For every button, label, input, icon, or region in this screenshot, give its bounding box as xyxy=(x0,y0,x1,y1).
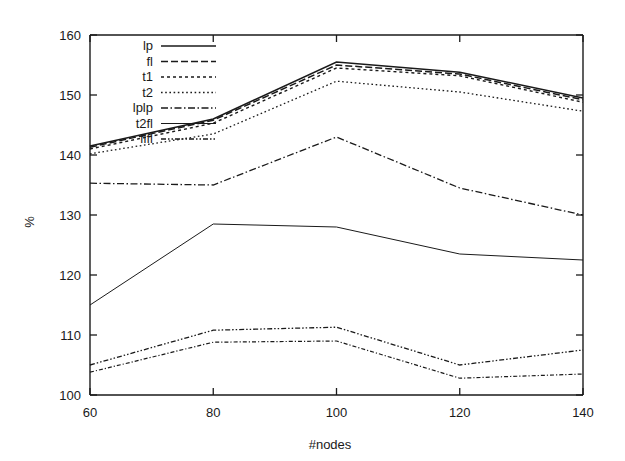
y-tick-label: 140 xyxy=(59,148,81,163)
chart-legend: lpflt1t2lplpt2flflfl xyxy=(133,38,216,146)
y-axis-title: % xyxy=(22,216,37,228)
line-chart: 1001101201301401501606080100120140 lpflt… xyxy=(0,0,625,461)
x-axis-title: #nodes xyxy=(309,437,352,452)
y-tick-label: 150 xyxy=(59,88,81,103)
x-tick-label: 60 xyxy=(83,405,97,420)
series-line-flfl-b xyxy=(90,341,583,378)
legend-label-t2fl: t2fl xyxy=(136,116,153,131)
legend-label-t2: t2 xyxy=(142,85,153,100)
x-tick-label: 140 xyxy=(572,405,594,420)
x-tick-label: 80 xyxy=(206,405,220,420)
x-tick-label: 100 xyxy=(326,405,348,420)
y-tick-label: 110 xyxy=(60,328,81,343)
legend-label-fl: fl xyxy=(147,54,154,69)
y-tick-label: 160 xyxy=(59,28,81,43)
series-line-t2fl xyxy=(90,224,583,305)
chart-container: 1001101201301401501606080100120140 lpflt… xyxy=(0,0,625,461)
series-line-lp xyxy=(90,62,583,146)
y-tick-label: 100 xyxy=(59,388,81,403)
legend-label-t1: t1 xyxy=(142,69,153,84)
y-tick-label: 120 xyxy=(59,268,81,283)
series-line-flfl xyxy=(90,327,583,365)
x-tick-label: 120 xyxy=(449,405,471,420)
series-line-lplp xyxy=(90,137,583,215)
legend-label-lplp: lplp xyxy=(133,100,153,115)
legend-label-lp: lp xyxy=(143,38,153,53)
series-line-t2 xyxy=(90,81,583,154)
data-series-group xyxy=(90,62,583,378)
legend-label-flfl: flfl xyxy=(140,131,153,146)
y-tick-label: 130 xyxy=(59,208,81,223)
